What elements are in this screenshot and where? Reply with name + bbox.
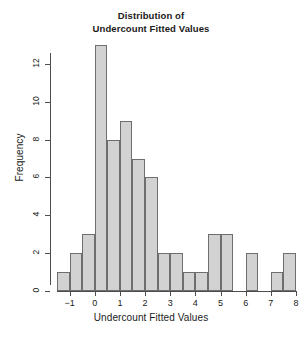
histogram-bar [208,234,221,291]
histogram-bar [246,253,259,291]
histogram-plot: Distribution of Undercount Fitted Values… [0,0,302,337]
histogram-bar [57,272,70,291]
histogram-bar [183,272,196,291]
histogram-bar [158,253,171,291]
histogram-bar [70,253,83,291]
histogram-bar [145,177,158,291]
histogram-bar [132,159,145,291]
histogram-bar [283,253,296,291]
histogram-bar [120,121,133,291]
histogram-bar [95,45,108,291]
histogram-bar [82,234,95,291]
histogram-bars [0,0,302,337]
histogram-bar [195,272,208,291]
histogram-bar [271,272,284,291]
histogram-bar [221,234,234,291]
histogram-bar [170,253,183,291]
histogram-bar [107,140,120,291]
